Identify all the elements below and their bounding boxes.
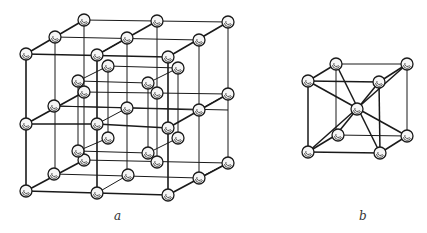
- panel-label-b: b: [359, 209, 367, 223]
- crystal-lattice-diagram: [0, 0, 427, 233]
- panel-label-a: a: [114, 209, 121, 223]
- lattice-a-atoms: [20, 14, 234, 201]
